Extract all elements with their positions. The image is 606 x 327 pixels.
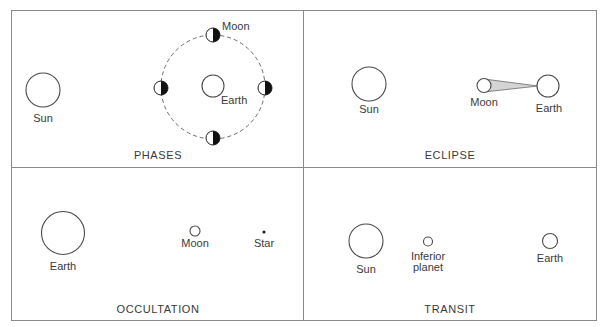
sun-circle [349, 224, 383, 258]
earth-label: Earth [536, 102, 562, 114]
star-dot [262, 230, 265, 233]
moon-phase-left [154, 81, 168, 95]
earth-circle [543, 234, 558, 249]
panel-eclipse: Sun Moon Earth ECLIPSE [352, 67, 562, 161]
sun-label: Sun [356, 263, 376, 275]
earth-label: Earth [537, 252, 563, 264]
moon-phase-bottom [206, 131, 220, 145]
moon-label: Moon [222, 20, 250, 32]
moon-phase-right [258, 81, 272, 95]
inferior-planet-label-line2: planet [413, 261, 443, 273]
panel-transit: Sun Inferior planet Earth TRANSIT [349, 224, 563, 315]
sun-circle [352, 67, 386, 101]
panel-occultation: Earth Moon Star OCCULTATION [42, 212, 275, 316]
moon-label: Moon [181, 237, 209, 249]
moon-circle [190, 226, 200, 236]
earth-circle [537, 75, 559, 97]
sun-label: Sun [33, 112, 53, 124]
earth-label: Earth [50, 260, 76, 272]
panel-title-transit: TRANSIT [424, 303, 475, 315]
moon-phase-top [206, 28, 220, 42]
earth-label: Earth [221, 94, 247, 106]
frame [12, 11, 597, 321]
panel-title-eclipse: ECLIPSE [425, 149, 476, 161]
astronomy-diagram: Sun Earth Moon PHASES Sun Moon [0, 0, 606, 327]
shadow-cone [484, 79, 538, 92]
inferior-planet-circle [424, 237, 433, 246]
panel-title-occultation: OCCULTATION [117, 303, 200, 315]
sun-label: Sun [359, 103, 379, 115]
earth-circle [42, 212, 85, 255]
sun-circle [26, 73, 60, 107]
moon-label: Moon [470, 96, 498, 108]
moon-circle [477, 79, 491, 93]
star-label: Star [254, 237, 275, 249]
panel-phases: Sun Earth Moon PHASES [26, 20, 272, 161]
panel-title-phases: PHASES [134, 149, 182, 161]
